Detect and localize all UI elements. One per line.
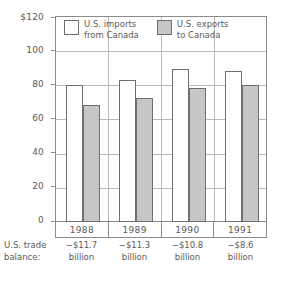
legend-label-imports: U.S. imports from Canada — [84, 19, 139, 40]
x-tick-label-1988: 1988 — [56, 222, 109, 237]
legend-label-exports-line2: to Canada — [177, 30, 229, 41]
trade-balance-amount-1989: −$11.3 — [108, 240, 161, 252]
bar-group-1991 — [214, 16, 267, 222]
trade-balance-1989: −$11.3 billion — [108, 240, 161, 263]
x-tick-label-1991: 1991 — [214, 222, 266, 237]
trade-balance-row-label: U.S. trade balance: — [4, 240, 54, 263]
legend-label-exports-line1: U.S. exports — [177, 19, 229, 30]
y-tick-label-20: 20 — [32, 182, 44, 191]
x-tick-label-1989: 1989 — [109, 222, 162, 237]
legend-entry-imports: U.S. imports from Canada — [64, 19, 139, 40]
y-tick-label-100: 100 — [26, 46, 44, 55]
trade-balance-1990: −$10.8 billion — [161, 240, 214, 263]
gray-swatch-icon — [157, 20, 172, 35]
trade-balance-amount-1991: −$8.6 — [214, 240, 267, 252]
legend-label-exports: U.S. exports to Canada — [177, 19, 229, 40]
bar-imports-1990 — [172, 69, 189, 222]
trade-balance-amount-1988: −$11.7 — [55, 240, 108, 252]
y-tick-label-80: 80 — [32, 80, 44, 89]
trade-balance-values: −$11.7 billion −$11.3 billion −$10.8 bil… — [55, 240, 267, 263]
legend-label-imports-line2: from Canada — [84, 30, 139, 41]
trade-balance-unit-1990: billion — [161, 252, 214, 264]
y-tick-label-120: $120 — [20, 13, 44, 22]
bar-imports-1988 — [66, 85, 83, 222]
trade-balance-unit-1989: billion — [108, 252, 161, 264]
trade-bar-chart-figure: $120 100 80 60 40 20 0 — [0, 0, 286, 281]
bar-group-1989 — [108, 16, 160, 222]
chart-legend: U.S. imports from Canada U.S. exports to… — [64, 19, 262, 40]
trade-balance-1988: −$11.7 billion — [55, 240, 108, 263]
bar-imports-1989 — [119, 80, 136, 222]
bar-group-1990 — [161, 16, 213, 222]
bar-exports-1989 — [136, 98, 153, 222]
trade-balance-row: U.S. trade balance: −$11.7 billion −$11.… — [0, 240, 286, 270]
white-swatch-icon — [64, 20, 79, 35]
bar-imports-1991 — [225, 71, 242, 222]
bar-exports-1988 — [83, 105, 100, 222]
y-axis: $120 100 80 60 40 20 0 — [0, 0, 51, 281]
trade-balance-unit-1991: billion — [214, 252, 267, 264]
y-tick-label-0: 0 — [38, 216, 44, 225]
trade-balance-unit-1988: billion — [55, 252, 108, 264]
trade-balance-row-label-line2: balance: — [4, 252, 54, 264]
bar-exports-1990 — [189, 88, 206, 222]
legend-entry-exports: U.S. exports to Canada — [157, 19, 229, 40]
bars-layer — [55, 16, 267, 222]
bar-group-1988 — [55, 16, 107, 222]
legend-label-imports-line1: U.S. imports — [84, 19, 139, 30]
bar-exports-1991 — [242, 85, 259, 222]
trade-balance-1991: −$8.6 billion — [214, 240, 267, 263]
y-tick-label-60: 60 — [32, 114, 44, 123]
trade-balance-amount-1990: −$10.8 — [161, 240, 214, 252]
trade-balance-row-label-line1: U.S. trade — [4, 240, 54, 252]
x-axis-year-band: 1988 1989 1990 1991 — [55, 222, 267, 238]
y-tick-label-40: 40 — [32, 148, 44, 157]
x-tick-label-1990: 1990 — [162, 222, 215, 237]
